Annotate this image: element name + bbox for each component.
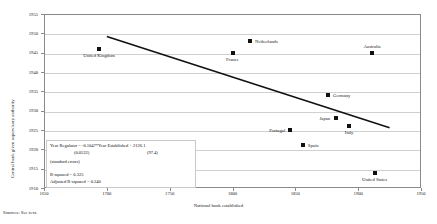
y-tick-label: 1930 <box>8 108 38 113</box>
data-point-marker <box>301 143 305 147</box>
x-tick-mark <box>170 188 171 191</box>
y-tick-label: 1940 <box>8 70 38 75</box>
x-tick-label: 1900 <box>338 191 378 196</box>
r-squared-value: R-squared = 0.325 <box>50 172 83 177</box>
y-tick-label: 1920 <box>8 147 38 152</box>
intercept-standard-error: (97.4) <box>147 150 158 155</box>
data-point-label: United States <box>362 177 387 182</box>
x-tick-mark <box>44 188 45 191</box>
data-point-label: Japan <box>320 116 331 121</box>
x-tick-mark <box>233 188 234 191</box>
x-tick-label: 1850 <box>275 191 315 196</box>
data-point-marker <box>370 51 374 55</box>
y-tick-label: 1935 <box>8 89 38 94</box>
data-point-marker <box>97 47 101 51</box>
source-note: Sources: See text. <box>3 210 37 215</box>
data-point-marker <box>347 124 351 128</box>
regression-stats-box: Year Regulator = -0.1047*Year Establishe… <box>46 140 196 188</box>
x-tick-mark <box>107 188 108 191</box>
y-tick-label: 1950 <box>8 31 38 36</box>
x-tick-label: 1650 <box>24 191 64 196</box>
data-point-label: Netherlands <box>255 39 278 44</box>
y-tick-label: 1910 <box>8 186 38 191</box>
standard-errors-note: (standard errors) <box>50 159 80 164</box>
adjusted-r-squared-value: Adjusted R-squared = 0.240 <box>50 179 101 184</box>
y-tick-label: 1955 <box>8 12 38 17</box>
data-point-marker <box>326 93 330 97</box>
data-point-marker <box>334 116 338 120</box>
x-axis-title: National bank established <box>0 203 437 208</box>
x-tick-mark <box>358 188 359 191</box>
y-tick-label: 1945 <box>8 50 38 55</box>
data-point-marker <box>373 171 377 175</box>
chart-figure: Central bank given supervisory authority… <box>0 0 437 224</box>
slope-standard-error: (0.0532) <box>74 150 89 155</box>
regression-equation: Year Regulator = -0.1047*Year Establishe… <box>50 143 145 148</box>
y-tick-label: 1915 <box>8 166 38 171</box>
x-tick-label: 1750 <box>150 191 190 196</box>
data-point-marker <box>248 39 252 43</box>
data-point-label: Germany <box>333 93 350 98</box>
data-point-label: United Kingdom <box>83 53 115 58</box>
y-tick-label: 1925 <box>8 128 38 133</box>
data-point-label: France <box>226 57 239 62</box>
data-point-marker <box>231 51 235 55</box>
data-point-label: Portugal <box>269 128 285 133</box>
x-tick-mark <box>295 188 296 191</box>
data-point-label: Italy <box>345 130 354 135</box>
data-point-label: Australia <box>363 44 380 49</box>
data-point-label: Spain <box>308 143 319 148</box>
x-tick-label: 1800 <box>213 191 253 196</box>
x-tick-label: 1700 <box>87 191 127 196</box>
x-tick-label: 1950 <box>401 191 437 196</box>
data-point-marker <box>288 128 292 132</box>
x-tick-mark <box>421 188 422 191</box>
